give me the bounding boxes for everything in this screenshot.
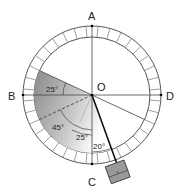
protractor-diagram: A B C D O 25° 45° 25° 20° [0,0,182,194]
point-A [91,25,94,28]
label-A: A [88,10,96,22]
angle-label-25-top: 25° [46,85,58,94]
label-O: O [97,81,106,93]
angle-label-45: 45° [52,123,64,132]
point-D [160,94,163,97]
angle-label-20: 20° [93,142,105,151]
point-O [91,94,94,97]
point-C [91,163,94,166]
angle-label-25-low: 25° [76,133,88,142]
point-B [22,94,25,97]
pendulum-weight [105,160,130,184]
label-B: B [8,90,15,102]
label-D: D [166,90,174,102]
label-C: C [88,176,96,188]
